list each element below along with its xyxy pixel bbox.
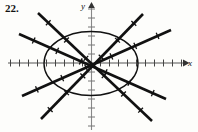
y-axis-label: y [81, 2, 85, 11]
figure-container: 22. x y [0, 0, 198, 132]
x-axis-label: x [188, 59, 192, 68]
y-axis-arrowhead [88, 2, 95, 8]
line-shallow-down-right [19, 34, 166, 99]
lines-group [19, 13, 171, 121]
axes-group [8, 2, 190, 130]
coordinate-plot [0, 0, 198, 132]
exercise-number-label: 22. [5, 2, 19, 14]
